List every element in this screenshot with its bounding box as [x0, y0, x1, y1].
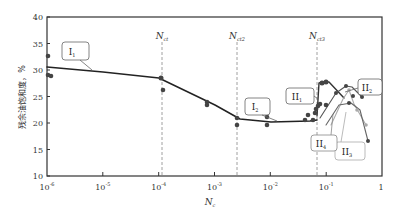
nct2-label: Nct2	[228, 31, 245, 42]
curve-i1	[47, 67, 317, 122]
x-axis-title: Nc	[204, 197, 216, 208]
y-tick-label: 35	[33, 40, 43, 49]
y-tick-label: 20	[33, 119, 43, 128]
annotation-ii1: II1	[286, 88, 318, 104]
y-tick-label: 30	[33, 66, 43, 75]
x-tick-label: 1	[378, 183, 383, 192]
data-points	[46, 54, 370, 143]
y-tick-label: 10	[33, 172, 43, 181]
threshold-labels: Nct Nct2 Nct3	[155, 31, 325, 42]
x-tick-label: 10-2	[263, 181, 278, 192]
nct-label: Nct	[155, 31, 170, 42]
threshold-lines	[162, 42, 317, 176]
curve-ii2	[320, 86, 362, 118]
x-tick-label: 10-4	[151, 181, 166, 192]
y-tick-label: 25	[33, 93, 43, 102]
nct3-label: Nct3	[308, 31, 325, 42]
chart: 10 15 20 25 30 35 40 10-6 10-5 10-4 10-3…	[0, 0, 399, 220]
y-tick-label: 15	[33, 146, 43, 155]
y-tick-label: 40	[33, 13, 43, 22]
annotation-ii3: II3	[335, 112, 365, 160]
annotation-i1: I1	[62, 42, 92, 70]
y-tick-labels: 10 15 20 25 30 35 40	[33, 13, 43, 181]
x-axis	[103, 172, 326, 176]
annotation-i2: I2	[245, 98, 277, 121]
x-tick-label: 10-6	[39, 181, 54, 192]
plot-frame	[47, 17, 382, 176]
curve-ii1	[317, 82, 344, 116]
x-tick-label: 10-3	[207, 181, 222, 192]
x-tick-label: 10-5	[95, 181, 110, 192]
y-axis-title: 残余油饱和度，%	[17, 65, 27, 129]
x-tick-labels: 10-6 10-5 10-4 10-3 10-2 10-1 1	[39, 181, 383, 192]
x-tick-label: 10-1	[319, 181, 334, 192]
